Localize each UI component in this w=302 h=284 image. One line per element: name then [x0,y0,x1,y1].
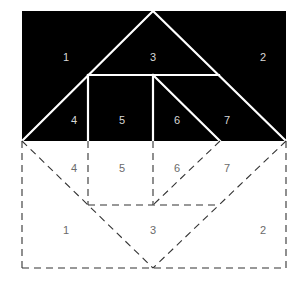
bottom-label-1: 1 [63,225,69,236]
top-label-3: 3 [150,52,156,63]
top-label-7: 7 [224,115,230,126]
bottom-label-6: 6 [174,163,180,174]
top-label-1: 1 [63,52,69,63]
bottom-label-7: 7 [224,163,230,174]
bottom-label-5: 5 [119,163,125,174]
top-label-2: 2 [260,52,266,63]
top-label-4: 4 [71,115,77,126]
dashed-diagonal-6-7 [153,141,220,205]
top-label-6: 6 [174,115,180,126]
bottom-label-4: 4 [71,163,77,174]
tangram-diagram [0,0,302,284]
top-label-5: 5 [119,115,125,126]
bottom-label-2: 2 [260,225,266,236]
bottom-dashed-lines [22,141,286,268]
bottom-label-3: 3 [150,225,156,236]
